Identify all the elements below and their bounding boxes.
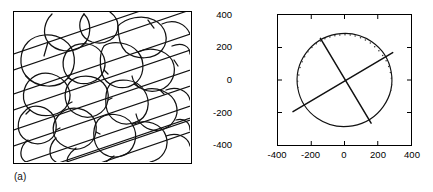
xtick-label-neg200: -200 bbox=[301, 150, 320, 160]
plot-frame bbox=[277, 14, 412, 146]
panel-b: 400 200 0 -200 -400 bbox=[215, 0, 433, 192]
ytick-label-neg400: -400 bbox=[213, 140, 232, 150]
ytick-label-200: 200 bbox=[216, 42, 232, 52]
scatter-points bbox=[297, 34, 393, 91]
major-axis-line bbox=[293, 53, 393, 112]
panel-a: (a) bbox=[0, 0, 215, 192]
ytick-label-400: 400 bbox=[216, 10, 232, 20]
xtick-label-200: 200 bbox=[370, 150, 386, 160]
microstructure-frame bbox=[13, 11, 192, 164]
xtick-label-0: 0 bbox=[341, 150, 346, 160]
plot-content bbox=[278, 15, 411, 145]
minor-axis-line bbox=[320, 38, 371, 123]
figure-root: (a) 400 200 0 -200 -400 bbox=[0, 0, 433, 192]
xtick-label-400: 400 bbox=[404, 150, 420, 160]
xtick-label-neg400: -400 bbox=[267, 150, 286, 160]
microstructure-drawing bbox=[14, 12, 190, 162]
ytick-label-neg200: -200 bbox=[213, 108, 232, 118]
ytick-label-0: 0 bbox=[227, 75, 232, 85]
panel-a-caption: (a) bbox=[14, 172, 26, 182]
